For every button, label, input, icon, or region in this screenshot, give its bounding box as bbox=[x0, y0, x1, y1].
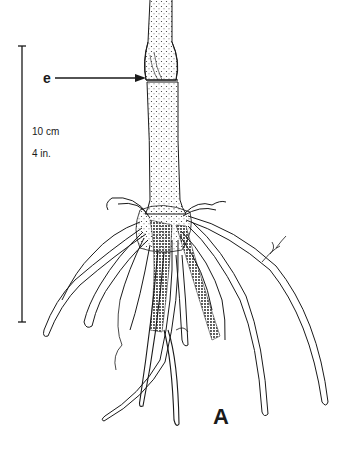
node-label-e: e bbox=[43, 70, 51, 86]
scale-label-metric: 10 cm bbox=[32, 126, 59, 137]
stalk bbox=[144, 0, 186, 214]
root-system-illustration bbox=[0, 0, 348, 451]
scale-bar bbox=[18, 46, 26, 322]
pointer-arrow bbox=[55, 74, 146, 82]
scale-label-imperial: 4 in. bbox=[32, 148, 51, 159]
panel-label: A bbox=[213, 404, 229, 430]
